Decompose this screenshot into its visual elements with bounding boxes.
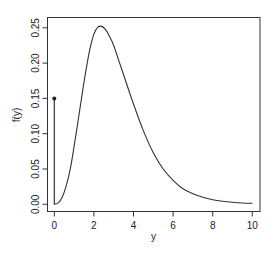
x-tick-label: 4 — [131, 220, 137, 231]
x-tick-label: 0 — [52, 220, 58, 231]
y-tick-label: 0.20 — [30, 53, 41, 73]
y-tick-label: 0.10 — [30, 124, 41, 144]
x-tick-label: 8 — [210, 220, 216, 231]
y-tick-label: 0.00 — [30, 194, 41, 214]
y-tick-label: 0.25 — [30, 18, 41, 38]
x-tick-label: 2 — [91, 220, 97, 231]
x-tick-label: 10 — [247, 220, 259, 231]
point-mass-dot — [52, 96, 56, 100]
y-axis: 0.000.050.100.150.200.25 — [30, 18, 48, 214]
density-plot: 0246810 0.000.050.100.150.200.25 y f(y) — [0, 0, 274, 255]
x-axis: 0246810 — [52, 212, 259, 231]
x-tick-label: 6 — [170, 220, 176, 231]
x-axis-label: y — [151, 231, 156, 242]
y-axis-label: f(y) — [11, 108, 22, 122]
y-tick-label: 0.05 — [30, 159, 41, 179]
y-tick-label: 0.15 — [30, 88, 41, 108]
density-curve — [54, 26, 252, 204]
